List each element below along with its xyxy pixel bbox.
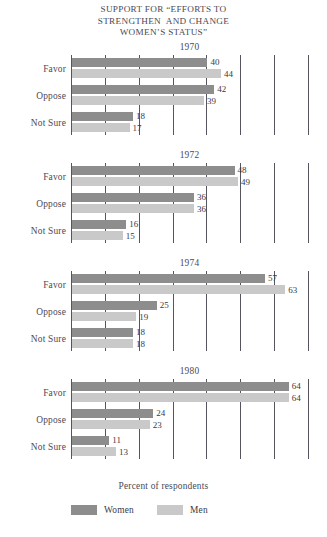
gridline-50 bbox=[240, 379, 241, 459]
plot-area: 646424231113 bbox=[71, 379, 308, 459]
gridline-20 bbox=[139, 163, 140, 243]
plot-area: 404442391817 bbox=[71, 55, 308, 135]
bar-women bbox=[72, 58, 207, 67]
bar-women bbox=[72, 328, 133, 337]
gridline-30 bbox=[173, 271, 174, 351]
bar-men bbox=[72, 96, 204, 105]
gridline-30 bbox=[173, 55, 174, 135]
bar-value-men: 15 bbox=[126, 232, 135, 241]
bar-men bbox=[72, 393, 289, 402]
bar-value-men: 36 bbox=[197, 205, 206, 214]
bar-men bbox=[72, 177, 238, 186]
bar-value-men: 23 bbox=[153, 421, 162, 430]
chart-title-line-1: SUPPORT FOR “EFFORTS TO bbox=[0, 4, 327, 16]
plot-area: 484936361615 bbox=[71, 163, 308, 243]
legend-label-men: Men bbox=[190, 505, 208, 515]
bar-men bbox=[72, 69, 221, 78]
gridline-60 bbox=[274, 271, 275, 351]
panel-year-label: 1970 bbox=[71, 42, 308, 52]
bar-men bbox=[72, 447, 116, 456]
bar-value-women: 40 bbox=[210, 58, 219, 67]
bar-value-men: 13 bbox=[119, 448, 128, 457]
gridline-40 bbox=[206, 379, 207, 459]
gridline-70 bbox=[308, 271, 309, 351]
gridline-40 bbox=[206, 163, 207, 243]
legend-swatch-men bbox=[157, 505, 183, 515]
category-label-favor: Favor bbox=[0, 388, 66, 398]
legend-item-men: Men bbox=[157, 503, 208, 517]
category-label-favor: Favor bbox=[0, 64, 66, 74]
plot-area: 576325191818 bbox=[71, 271, 308, 351]
bar-women bbox=[72, 436, 109, 445]
bar-value-women: 48 bbox=[238, 166, 247, 175]
bar-men bbox=[72, 123, 130, 132]
category-label-favor: Favor bbox=[0, 280, 66, 290]
bar-value-women: 42 bbox=[217, 85, 226, 94]
gridline-70 bbox=[308, 55, 309, 135]
category-label-not-sure: Not Sure bbox=[0, 226, 66, 236]
gridline-60 bbox=[274, 55, 275, 135]
bar-value-women: 64 bbox=[292, 382, 301, 391]
legend-item-women: Women bbox=[71, 503, 134, 517]
category-label-oppose: Oppose bbox=[0, 91, 66, 101]
gridline-70 bbox=[308, 379, 309, 459]
bar-value-men: 63 bbox=[288, 286, 297, 295]
bar-women bbox=[72, 85, 214, 94]
bar-men bbox=[72, 420, 150, 429]
category-label-favor: Favor bbox=[0, 172, 66, 182]
bar-value-women: 57 bbox=[268, 274, 277, 283]
bar-value-women: 36 bbox=[197, 193, 206, 202]
chart-title-line-2: STRENGTHEN AND CHANGE bbox=[0, 16, 327, 28]
bar-women bbox=[72, 220, 126, 229]
gridline-40 bbox=[206, 55, 207, 135]
legend-label-women: Women bbox=[104, 505, 134, 515]
bar-value-women: 24 bbox=[156, 409, 165, 418]
bar-women bbox=[72, 274, 265, 283]
bar-value-men: 39 bbox=[207, 97, 216, 106]
gridline-40 bbox=[206, 271, 207, 351]
bar-men bbox=[72, 312, 136, 321]
category-label-oppose: Oppose bbox=[0, 307, 66, 317]
bar-men bbox=[72, 204, 194, 213]
bar-men bbox=[72, 285, 285, 294]
gridline-70 bbox=[308, 163, 309, 243]
bar-value-women: 18 bbox=[136, 112, 145, 121]
bar-men bbox=[72, 339, 133, 348]
gridline-60 bbox=[274, 163, 275, 243]
legend-swatch-women bbox=[71, 505, 97, 515]
category-label-oppose: Oppose bbox=[0, 199, 66, 209]
bar-value-men: 18 bbox=[136, 340, 145, 349]
bar-value-men: 44 bbox=[224, 70, 233, 79]
panel-year-label: 1972 bbox=[71, 150, 308, 160]
category-label-not-sure: Not Sure bbox=[0, 334, 66, 344]
bar-value-men: 49 bbox=[241, 178, 250, 187]
panel-year-label: 1980 bbox=[71, 366, 308, 376]
bar-value-men: 19 bbox=[139, 313, 148, 322]
bar-women bbox=[72, 193, 194, 202]
bar-men bbox=[72, 231, 123, 240]
gridline-50 bbox=[240, 163, 241, 243]
bar-women bbox=[72, 301, 157, 310]
bar-women bbox=[72, 382, 289, 391]
gridline-30 bbox=[173, 379, 174, 459]
bar-women bbox=[72, 166, 235, 175]
x-axis-label: Percent of respondents bbox=[0, 481, 327, 491]
gridline-30 bbox=[173, 163, 174, 243]
chart-title-line-3: WOMEN’S STATUS” bbox=[0, 27, 327, 39]
bar-value-men: 64 bbox=[292, 394, 301, 403]
bar-value-women: 16 bbox=[129, 220, 138, 229]
bar-women bbox=[72, 112, 133, 121]
bar-women bbox=[72, 409, 153, 418]
gridline-50 bbox=[240, 55, 241, 135]
chart-title: SUPPORT FOR “EFFORTS TO STRENGTHEN AND C… bbox=[0, 4, 327, 39]
bar-value-women: 25 bbox=[160, 301, 169, 310]
category-label-not-sure: Not Sure bbox=[0, 118, 66, 128]
panel-year-label: 1974 bbox=[71, 258, 308, 268]
gridline-50 bbox=[240, 271, 241, 351]
gridline-60 bbox=[274, 379, 275, 459]
bar-value-women: 11 bbox=[112, 436, 121, 445]
bar-value-women: 18 bbox=[136, 328, 145, 337]
category-label-oppose: Oppose bbox=[0, 415, 66, 425]
category-label-not-sure: Not Sure bbox=[0, 442, 66, 452]
chart-legend: WomenMen bbox=[71, 503, 308, 517]
